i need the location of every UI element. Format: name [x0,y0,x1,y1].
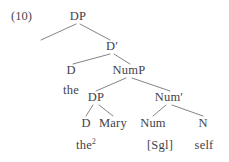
terminal-mary: Mary [99,117,127,130]
node-inner-d: D [81,117,90,130]
branch-root-dp-to-d-bar [80,24,110,40]
terminal-self: self [195,139,214,152]
terminal-the-lower: the2 [76,139,96,152]
node-num-head: Num [140,117,166,130]
syntax-tree-figure: (10) DP D′ D NumP the DP Num′ D Mary Num… [0,0,229,162]
terminal-the-lower-text: the [76,138,92,152]
example-number: (10) [11,10,32,23]
branch-inner-dp-to-d [86,105,93,116]
branch-num-bar-to-n [172,105,203,116]
branch-root-dp-to-empty-spec [41,24,76,40]
node-nump: NumP [113,64,146,77]
node-d-bar: D′ [106,40,118,53]
branch-d-bar-to-d [73,54,110,64]
node-inner-dp: DP [88,91,104,104]
node-root-dp: DP [70,10,86,23]
terminal-sgl-feature: [Sgl] [147,139,173,152]
terminal-the-upper: the [63,84,79,97]
branch-num-bar-to-num [153,105,166,116]
node-n-head: N [198,117,207,130]
node-d-head: D [66,64,75,77]
branch-inner-dp-to-mary [99,105,113,116]
terminal-the-lower-index: 2 [92,137,96,146]
node-num-bar: Num′ [155,91,184,104]
